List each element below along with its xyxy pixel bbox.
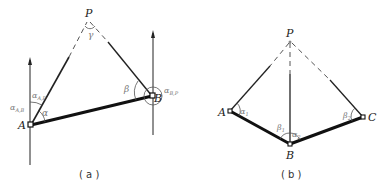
baseline-bc xyxy=(290,117,363,144)
station-marker-b xyxy=(288,142,292,146)
caption-b: ( b ) xyxy=(281,169,302,180)
caption-a: ( a ) xyxy=(79,169,99,180)
angle-arc-beta xyxy=(134,81,138,100)
line-pa-dashed xyxy=(270,43,289,66)
line-pb-solid xyxy=(108,42,152,96)
angle-arc-alpha-ap xyxy=(30,102,42,105)
label-c: C xyxy=(368,111,377,124)
label-beta: β xyxy=(123,84,129,94)
label-alpha1: α1 xyxy=(240,107,249,117)
line-pa-solid xyxy=(230,66,270,111)
baseline-ab xyxy=(31,96,152,125)
north-arrow-icon xyxy=(151,30,155,38)
label-a: A xyxy=(217,106,226,119)
station-marker-c xyxy=(361,115,365,119)
label-alpha2: α2 xyxy=(292,130,301,140)
figure-b: P A B C α1 β1 α2 β2 ( b ) xyxy=(217,27,377,180)
label-p: P xyxy=(84,7,93,20)
figure-a: P γ A B α β αA,P αA,B αB,P ( a ) xyxy=(10,7,179,180)
figure-canvas: P γ A B α β αA,P αA,B αB,P ( a ) xyxy=(0,0,385,190)
line-pc-dashed xyxy=(292,43,330,80)
station-marker-a xyxy=(228,109,232,113)
label-alpha-bp: αB,P xyxy=(164,86,179,96)
label-b: B xyxy=(285,149,294,162)
label-a: A xyxy=(17,119,26,132)
angle-arc-gamma xyxy=(85,26,95,29)
line-ap-dashed xyxy=(69,22,87,57)
station-marker-a xyxy=(28,122,33,127)
label-beta1: β1 xyxy=(276,123,285,133)
label-beta2: β2 xyxy=(342,111,351,121)
label-b: B xyxy=(153,92,162,105)
label-alpha-ab: αA,B xyxy=(10,103,25,113)
label-alpha: α xyxy=(42,108,48,118)
north-arrow-icon xyxy=(28,57,32,65)
label-p: P xyxy=(285,27,294,40)
label-alpha-ap: αA,P xyxy=(32,91,47,101)
label-gamma: γ xyxy=(88,30,94,40)
point-p-marker xyxy=(289,41,292,44)
